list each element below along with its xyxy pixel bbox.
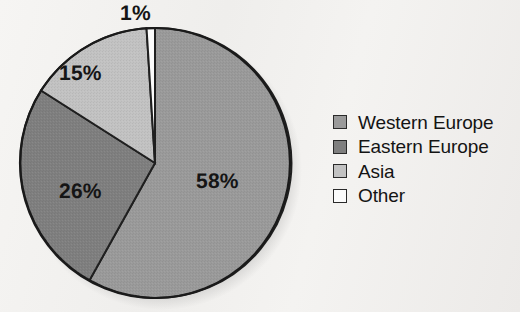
legend-swatch-icon <box>333 164 347 178</box>
pie-label-eastern-europe: 26% <box>59 180 102 204</box>
legend-swatch-icon <box>333 189 347 203</box>
legend: Western Europe Eastern Europe Asia Other <box>333 110 517 208</box>
legend-item-eastern-europe[interactable]: Eastern Europe <box>333 135 517 160</box>
legend-item-asia[interactable]: Asia <box>333 159 517 184</box>
legend-item-label: Other <box>358 186 405 205</box>
legend-swatch-icon <box>333 115 347 129</box>
legend-swatch-icon <box>333 140 347 154</box>
legend-item-label: Eastern Europe <box>358 137 489 156</box>
chart-canvas: 58% 26% 15% 1% Western Europe Eastern Eu… <box>0 0 520 312</box>
pie-chart: 58% 26% 15% 1% <box>0 0 330 312</box>
pie-label-asia: 15% <box>59 62 102 86</box>
legend-item-label: Asia <box>358 162 395 181</box>
pie-chart-svg <box>0 0 330 312</box>
pie-label-western-europe: 58% <box>196 170 239 194</box>
legend-item-label: Western Europe <box>358 113 494 132</box>
legend-item-other[interactable]: Other <box>333 184 517 209</box>
pie-label-other: 1% <box>120 2 151 26</box>
legend-item-western-europe[interactable]: Western Europe <box>333 110 517 135</box>
